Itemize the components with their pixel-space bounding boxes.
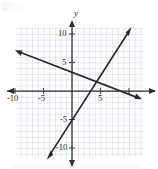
coordinate-plane [0, 0, 158, 169]
y-axis-arrow-up [69, 20, 75, 27]
x-axis-arrow-right [149, 88, 156, 94]
y-axis-arrow-down [69, 160, 75, 167]
x-tick-label-neg-10: -10 [7, 94, 18, 103]
y-tick-label-pos-10: 10 [58, 29, 67, 38]
graph-figure: -10 -5 5 10 5 -5 -10 y [0, 0, 158, 169]
y-tick-label-neg-10: -10 [56, 143, 67, 152]
y-tick-label-neg-5: -5 [60, 115, 67, 124]
x-tick-label-pos-5: 5 [98, 94, 102, 103]
x-tick-label-neg-5: -5 [38, 94, 45, 103]
y-tick-label-pos-5: 5 [62, 58, 66, 67]
y-axis-name-label: y [74, 9, 78, 18]
